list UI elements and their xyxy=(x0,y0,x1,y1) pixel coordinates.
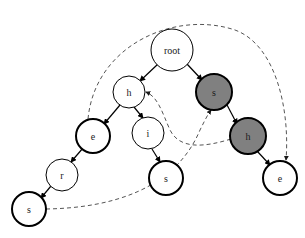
graph-node-h1[interactable]: h xyxy=(113,76,145,108)
tree-edge xyxy=(152,149,160,162)
suffix-link-edge xyxy=(46,110,211,209)
node-circle[interactable] xyxy=(113,76,145,108)
tree-edge xyxy=(134,107,143,118)
node-circle[interactable] xyxy=(230,118,266,154)
node-circle[interactable] xyxy=(196,74,232,110)
node-circle[interactable] xyxy=(149,161,183,195)
graph-node-s_mid[interactable]: s xyxy=(149,161,183,195)
node-circle[interactable] xyxy=(12,192,46,226)
diagram-canvas: roothseihrses xyxy=(0,0,305,238)
tree-edge xyxy=(104,105,120,124)
node-circle[interactable] xyxy=(132,117,164,149)
graph-svg: roothseihrses xyxy=(0,0,305,238)
tree-edge xyxy=(226,103,237,124)
graph-node-e1[interactable]: e xyxy=(76,119,110,153)
graph-node-i1[interactable]: i xyxy=(132,117,164,149)
node-circle[interactable] xyxy=(263,161,297,195)
graph-node-e2[interactable]: e xyxy=(263,161,297,195)
tree-edge xyxy=(71,148,83,162)
tree-edge xyxy=(41,186,51,198)
tree-edge xyxy=(257,151,270,165)
tree-edge xyxy=(187,64,202,80)
tree-edge xyxy=(140,64,158,81)
graph-node-h_gray[interactable]: h xyxy=(230,118,266,154)
graph-node-s_gray[interactable]: s xyxy=(196,74,232,110)
node-circle[interactable] xyxy=(151,29,193,71)
node-group: roothseihrses xyxy=(12,29,297,226)
node-circle[interactable] xyxy=(46,159,78,191)
graph-node-root[interactable]: root xyxy=(151,29,193,71)
node-circle[interactable] xyxy=(76,119,110,153)
graph-node-r1[interactable]: r xyxy=(46,159,78,191)
graph-node-s_low[interactable]: s xyxy=(12,192,46,226)
